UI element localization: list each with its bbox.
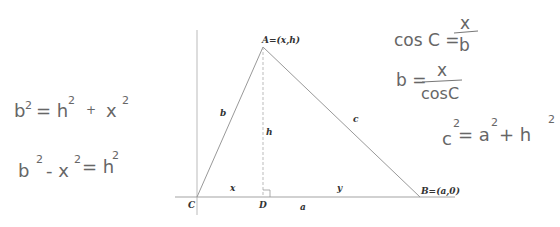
svg-text:c: c: [442, 128, 452, 149]
svg-text:+: +: [86, 103, 96, 117]
segment-y-label: y: [336, 183, 343, 193]
handwritten-eq-b-squared: b 2 = h 2 + x 2: [14, 94, 129, 121]
svg-text:x: x: [437, 60, 447, 80]
svg-text:+ h: + h: [499, 124, 531, 145]
svg-text:cos C =: cos C =: [394, 30, 460, 50]
vertex-b-label: B=(a,0): [420, 186, 460, 197]
side-a-label: a: [300, 202, 306, 212]
svg-text:= h: = h: [36, 100, 68, 121]
svg-text:2: 2: [36, 153, 43, 166]
svg-text:2: 2: [122, 94, 129, 107]
svg-text:2: 2: [68, 94, 75, 107]
right-angle-marker: [263, 190, 270, 197]
svg-text:cosC: cosC: [421, 84, 459, 103]
segment-x-label: x: [229, 183, 236, 193]
svg-text:b: b: [18, 160, 29, 181]
vertex-a-label: A=(x,h): [261, 35, 300, 46]
svg-text:2: 2: [25, 99, 32, 112]
svg-text:x: x: [106, 100, 117, 121]
svg-text:= h: = h: [82, 156, 114, 177]
point-d-label: D: [258, 200, 267, 210]
svg-text:b: b: [14, 100, 25, 121]
handwritten-eq-c-squared: c 2 = a 2 + h 2: [442, 113, 555, 149]
side-c-label: c: [353, 114, 359, 124]
svg-text:x: x: [460, 13, 470, 33]
handwritten-eq-b-equals: b = x cosC: [396, 60, 462, 103]
height-h-label: h: [266, 127, 273, 137]
triangle-diagram: A=(x,h) B=(a,0) C D b c h x y a b 2 = h …: [0, 0, 560, 227]
svg-text:2: 2: [112, 149, 119, 162]
svg-text:- x: - x: [46, 160, 69, 181]
svg-text:2: 2: [548, 113, 555, 126]
side-b: [197, 47, 263, 197]
svg-text:2: 2: [491, 116, 498, 129]
handwritten-eq-cos-c: cos C = x b: [394, 13, 478, 55]
handwritten-eq-h-squared: b 2 - x 2 = h 2: [18, 149, 119, 181]
side-b-label: b: [220, 108, 226, 118]
svg-text:b: b: [459, 35, 470, 55]
vertex-c-label: C: [188, 200, 196, 210]
svg-text:2: 2: [74, 153, 81, 166]
svg-text:= a: = a: [458, 124, 490, 145]
